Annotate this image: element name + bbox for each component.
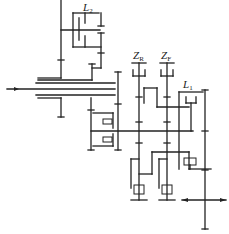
label-l1-sub: 1: [189, 84, 193, 92]
input-shaft: [7, 83, 115, 95]
label-zr: ZR: [133, 50, 144, 63]
clutch-l2: [38, 13, 104, 80]
shift-path: [144, 88, 211, 169]
label-zf: ZF: [161, 50, 171, 63]
clutch-l1: [179, 90, 208, 169]
label-l1: L1: [183, 79, 193, 92]
countershaft: [88, 72, 193, 150]
label-l2-sub: 2: [89, 7, 93, 15]
label-l2: L2: [83, 2, 93, 15]
label-zf-sub: F: [167, 55, 171, 63]
lower-left-shaft: [38, 98, 64, 117]
transmission-schematic: [0, 0, 229, 234]
label-zr-sub: R: [139, 55, 144, 63]
